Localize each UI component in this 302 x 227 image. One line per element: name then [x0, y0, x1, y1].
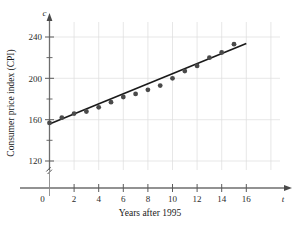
chart-background: [0, 0, 302, 227]
x-tick-label: 4: [96, 194, 101, 204]
x-tick-label: 6: [121, 194, 126, 204]
data-point: [109, 100, 114, 105]
data-point: [182, 69, 187, 74]
x-axis-title: Years after 1995: [119, 208, 182, 218]
data-point: [47, 121, 52, 126]
x-tick-label: 10: [168, 194, 178, 204]
data-point: [121, 95, 126, 100]
y-tick-label: 240: [29, 32, 43, 42]
y-axis-title: Consumer price index (CPI): [6, 49, 17, 156]
data-point: [96, 105, 101, 110]
y-tick-label: 200: [29, 74, 43, 84]
cpi-scatter-chart: 240 200 160 120 c 0 2 4 6: [0, 0, 302, 227]
data-point: [133, 92, 138, 97]
y-tick-label: 120: [29, 156, 43, 166]
y-tick-label: 160: [29, 115, 43, 125]
x-tick-label: 8: [146, 194, 151, 204]
x-tick-label: 12: [193, 194, 202, 204]
chart-svg: 240 200 160 120 c 0 2 4 6: [0, 0, 302, 227]
data-point: [219, 50, 224, 55]
data-point: [195, 64, 200, 69]
x-tick-label: 2: [72, 194, 77, 204]
data-point: [146, 87, 151, 92]
data-point: [84, 109, 89, 114]
data-point: [59, 115, 64, 120]
data-point: [232, 42, 237, 47]
y-axis-variable-label: c: [43, 8, 47, 18]
x-tick-label: 0: [40, 194, 45, 204]
data-point: [170, 76, 175, 81]
data-point: [158, 83, 163, 88]
x-tick-label: 16: [242, 194, 252, 204]
data-point: [207, 55, 212, 60]
data-point: [72, 111, 77, 116]
x-tick-label: 14: [217, 194, 227, 204]
